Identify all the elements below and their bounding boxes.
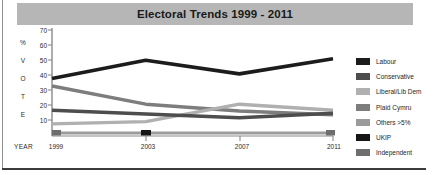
x-tick-label: 1999 [49, 143, 63, 150]
legend-item-ukip[interactable]: UKIP [356, 130, 439, 145]
legend-label-independent: Independent [376, 149, 412, 156]
page-bottom-rule [2, 168, 426, 170]
legend-label-labour: Labour [376, 58, 396, 65]
legend-label-conservative: Conservative [376, 73, 414, 80]
legend-label-plaid-cymru: Plaid Cymru [376, 104, 411, 111]
legend-swatch-independent [356, 149, 370, 156]
x-tick-label: 2003 [141, 143, 155, 150]
chart-page: Electoral Trends 1999 - 2011 % V O T E 7… [0, 0, 439, 175]
legend-item-liberal-lib-dem[interactable]: Liberal/Lib Dem [356, 84, 439, 99]
legend-item-conservative[interactable]: Conservative [356, 69, 439, 84]
legend-label-ukip: UKIP [376, 134, 391, 141]
series-line-labour [52, 59, 333, 79]
legend-swatch-conservative [356, 73, 370, 80]
legend-swatch-ukip [356, 134, 370, 141]
legend-item-independent[interactable]: Independent [356, 145, 439, 160]
legend-swatch-others [356, 119, 370, 126]
legend-item-labour[interactable]: Labour [356, 54, 439, 69]
chart-legend: Labour Conservative Liberal/Lib Dem Plai… [356, 54, 439, 160]
legend-item-others[interactable]: Others >5% [356, 115, 439, 130]
marker-ukip-2003 [141, 130, 151, 136]
marker-independent-2011 [326, 130, 335, 136]
legend-swatch-labour [356, 58, 370, 65]
x-tick-label: 2007 [235, 143, 249, 150]
chart-title: Electoral Trends 1999 - 2011 [137, 8, 293, 20]
legend-label-others: Others >5% [376, 119, 411, 126]
x-axis-label: YEAR [14, 143, 33, 150]
chart-title-bar: Electoral Trends 1999 - 2011 [17, 3, 413, 25]
marker-independent-1999 [52, 130, 61, 136]
x-tick-label: 2011 [327, 143, 341, 150]
x-axis-ticks [146, 136, 333, 141]
legend-item-plaid-cymru[interactable]: Plaid Cymru [356, 100, 439, 115]
legend-swatch-liberal-lib-dem [356, 88, 370, 95]
legend-swatch-plaid-cymru [356, 104, 370, 111]
legend-label-liberal-lib-dem: Liberal/Lib Dem [376, 88, 422, 95]
